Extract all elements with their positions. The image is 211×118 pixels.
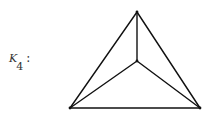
edge-center-bottom-left <box>70 61 137 108</box>
edge-top-bottom-right <box>137 12 200 108</box>
vertex-bottom-left <box>69 107 72 110</box>
edge-center-bottom-right <box>137 61 200 108</box>
vertex-bottom-right <box>199 107 202 110</box>
k4-graph-diagram <box>0 0 211 118</box>
vertex-top <box>136 11 139 14</box>
edge-top-bottom-left <box>70 12 137 108</box>
vertex-center <box>136 60 139 63</box>
